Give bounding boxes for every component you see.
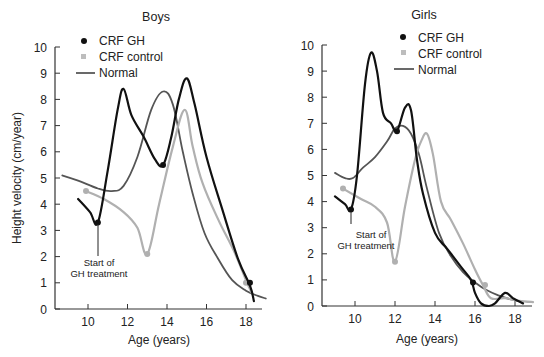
y-tick-label: 2 bbox=[40, 250, 47, 264]
x-tick-label: 18 bbox=[239, 315, 253, 329]
crf-gh-marker bbox=[247, 280, 253, 286]
girls-legend: CRF GH CRF control Normal bbox=[394, 31, 482, 77]
legend-normal-label: Normal bbox=[99, 66, 138, 80]
y-tick-label: 7 bbox=[40, 119, 47, 133]
y-tick-label: 6 bbox=[40, 145, 47, 159]
crf-control-line bbox=[343, 133, 533, 302]
y-tick-label: 9 bbox=[40, 67, 47, 81]
legend-crf-gh-marker bbox=[81, 38, 87, 44]
legend-crf-gh-marker bbox=[400, 34, 406, 40]
crf-control-marker bbox=[392, 259, 398, 265]
y-tick-label: 5 bbox=[40, 172, 47, 186]
boys-axes: 0123456789101012141618 bbox=[34, 41, 262, 330]
legend-crf-control-marker bbox=[81, 54, 86, 59]
annotation-line1: Start of bbox=[84, 257, 115, 268]
legend-crf-gh-label: CRF GH bbox=[99, 34, 145, 48]
x-tick-label: 14 bbox=[160, 315, 174, 329]
crf-control-marker bbox=[144, 251, 150, 257]
girls-lines bbox=[335, 52, 533, 306]
annotation-line1: Start of bbox=[356, 229, 387, 240]
crf-control-marker bbox=[340, 186, 346, 192]
y-tick-label: 8 bbox=[40, 93, 47, 107]
x-tick-label: 12 bbox=[121, 315, 135, 329]
legend-normal-label: Normal bbox=[418, 63, 457, 77]
y-tick-label: 2 bbox=[307, 247, 314, 261]
legend-crf-control-label: CRF control bbox=[99, 50, 163, 64]
x-tick-label: 10 bbox=[348, 312, 362, 326]
y-tick-label: 6 bbox=[307, 143, 314, 157]
growth-velocity-figure: Height velocity (cm/year) Boys 012345678… bbox=[0, 0, 544, 357]
boys-title: Boys bbox=[142, 10, 170, 24]
chart-canvas: Height velocity (cm/year) Boys 012345678… bbox=[0, 0, 544, 357]
girls-annotation: Start of GH treatment bbox=[337, 212, 394, 251]
legend-crf-gh-label: CRF GH bbox=[418, 31, 464, 45]
boys-legend: CRF GH CRF control Normal bbox=[76, 34, 163, 80]
x-tick-label: 16 bbox=[200, 315, 214, 329]
x-tick-label: 12 bbox=[388, 312, 402, 326]
annotation-line2: GH treatment bbox=[70, 268, 127, 279]
x-tick-label: 16 bbox=[468, 312, 482, 326]
crf-gh-marker bbox=[160, 162, 166, 168]
y-tick-label: 7 bbox=[307, 117, 314, 131]
girls-axes: 0123456789101012141618 bbox=[301, 39, 532, 327]
y-tick-label: 10 bbox=[34, 41, 48, 55]
y-tick-label: 5 bbox=[307, 169, 314, 183]
y-tick-label: 3 bbox=[307, 221, 314, 235]
y-tick-label: 0 bbox=[40, 303, 47, 317]
crf-gh-marker bbox=[348, 206, 354, 212]
y-tick-label: 4 bbox=[40, 198, 47, 212]
annotation-line2: GH treatment bbox=[337, 240, 394, 251]
x-tick-label: 14 bbox=[428, 312, 442, 326]
y-tick-label: 1 bbox=[40, 276, 47, 290]
boys-panel: Boys 0123456789101012141618 CRF GH CRF c… bbox=[34, 10, 266, 347]
legend-crf-control-marker bbox=[401, 50, 406, 55]
y-tick-label: 8 bbox=[307, 91, 314, 105]
girls-panel: Girls 0123456789101012141618 CRF GH CRF … bbox=[301, 8, 533, 346]
crf-gh-marker bbox=[394, 128, 400, 134]
x-tick-label: 10 bbox=[81, 315, 95, 329]
y-tick-label: 3 bbox=[40, 224, 47, 238]
y-tick-label: 9 bbox=[307, 65, 314, 79]
y-axis-label: Height velocity (cm/year) bbox=[10, 112, 24, 244]
y-tick-label: 10 bbox=[301, 39, 315, 53]
y-tick-label: 4 bbox=[307, 195, 314, 209]
x-tick-label: 18 bbox=[508, 312, 522, 326]
girls-x-axis-label: Age (years) bbox=[396, 332, 458, 346]
legend-crf-control-label: CRF control bbox=[418, 47, 482, 61]
crf-control-marker bbox=[83, 188, 89, 194]
boys-x-axis-label: Age (years) bbox=[128, 333, 190, 347]
girls-title: Girls bbox=[411, 8, 437, 22]
crf-gh-marker bbox=[470, 280, 476, 286]
y-tick-label: 1 bbox=[307, 273, 314, 287]
crf-control-marker bbox=[482, 282, 488, 288]
boys-annotation: Start of GH treatment bbox=[70, 224, 127, 279]
y-tick-label: 0 bbox=[307, 300, 314, 314]
crf-gh-line bbox=[335, 52, 523, 306]
